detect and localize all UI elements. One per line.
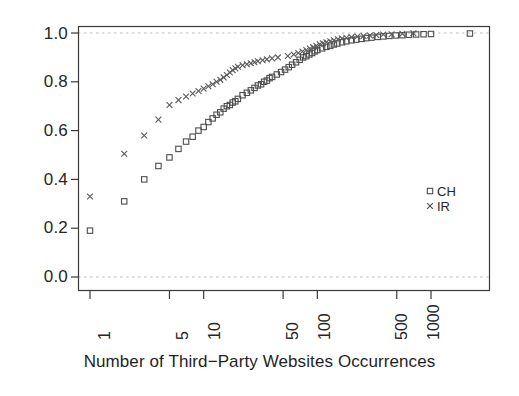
axis-ticks bbox=[71, 33, 431, 299]
marker-cross bbox=[176, 97, 182, 103]
marker-cross bbox=[285, 53, 291, 59]
marker-cross bbox=[121, 151, 127, 157]
legend-markers bbox=[427, 188, 433, 209]
y-tick-label-1: 1.0 bbox=[26, 24, 68, 44]
y-tick-label-3: 0.6 bbox=[26, 121, 68, 141]
marker-cross bbox=[427, 203, 433, 209]
marker-cross bbox=[141, 133, 147, 139]
marker-square bbox=[142, 177, 147, 182]
marker-square bbox=[183, 139, 188, 144]
chart-figure: 1.0 0.8 0.6 0.4 0.2 0.0 1 5 10 50 100 50… bbox=[0, 0, 519, 396]
marker-square bbox=[176, 146, 181, 151]
plot-border bbox=[79, 27, 490, 291]
marker-square bbox=[156, 163, 161, 168]
marker-square bbox=[421, 32, 426, 37]
y-tick-label-4: 0.4 bbox=[26, 170, 68, 190]
axis-box bbox=[79, 27, 490, 291]
marker-cross bbox=[235, 64, 241, 70]
marker-square bbox=[167, 155, 172, 160]
marker-square bbox=[122, 199, 127, 204]
marker-cross bbox=[156, 117, 162, 123]
marker-cross bbox=[190, 91, 196, 97]
legend-label-ir: IR bbox=[437, 199, 450, 214]
marker-square bbox=[196, 128, 201, 133]
x-tick-label-500: 500 bbox=[393, 313, 411, 340]
y-tick-label-6: 0.0 bbox=[26, 267, 68, 287]
marker-square bbox=[87, 228, 92, 233]
marker-cross bbox=[167, 102, 173, 108]
marker-cross bbox=[183, 94, 189, 100]
marker-cross bbox=[399, 31, 405, 37]
marker-cross bbox=[87, 194, 93, 200]
marker-square bbox=[427, 188, 432, 193]
legend-label-ch: CH bbox=[437, 184, 456, 199]
marker-square bbox=[393, 33, 398, 38]
marker-square bbox=[428, 31, 433, 36]
x-tick-label-50: 50 bbox=[284, 322, 302, 340]
marker-cross bbox=[275, 55, 281, 61]
y-tick-label-2: 0.8 bbox=[26, 72, 68, 92]
x-tick-label-1000: 1000 bbox=[425, 304, 443, 340]
marker-cross bbox=[244, 61, 250, 67]
x-axis-title: Number of Third−Party Websites Occurrenc… bbox=[0, 352, 519, 372]
marker-cross bbox=[269, 55, 275, 61]
marker-cross bbox=[291, 52, 297, 58]
series-ir-markers bbox=[87, 30, 416, 199]
x-tick-label-1: 1 bbox=[96, 331, 114, 340]
marker-square bbox=[190, 134, 195, 139]
marker-cross bbox=[264, 56, 270, 62]
x-tick-label-100: 100 bbox=[316, 313, 334, 340]
series-ch-markers bbox=[87, 31, 472, 234]
marker-cross bbox=[380, 32, 386, 38]
y-tick-label-5: 0.2 bbox=[26, 218, 68, 238]
x-tick-label-10: 10 bbox=[206, 322, 224, 340]
x-tick-label-5: 5 bbox=[174, 331, 192, 340]
